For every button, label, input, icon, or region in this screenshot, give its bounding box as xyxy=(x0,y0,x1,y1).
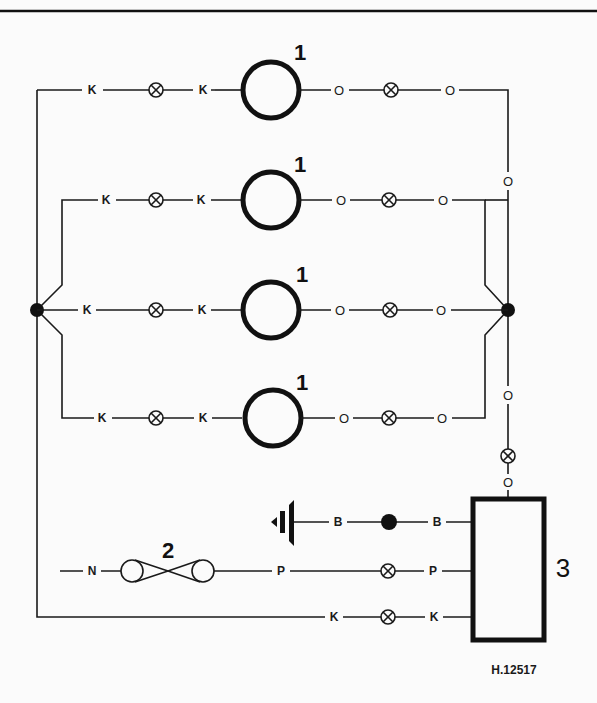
lamp-icon xyxy=(243,62,299,118)
component-label: 1 xyxy=(296,370,308,395)
control-unit-box xyxy=(473,499,544,640)
return-row: K K xyxy=(325,609,472,625)
lamp-row-3: K K 1 O O xyxy=(37,262,508,338)
lamp-row-1: K K 1 O O xyxy=(37,40,466,118)
reference-number: H.12517 xyxy=(491,663,537,677)
wire-code-label: B xyxy=(433,515,442,529)
connector-icon xyxy=(382,193,396,207)
wire-code-label: O xyxy=(336,193,346,208)
switch-icon xyxy=(121,560,214,582)
wire-code-label: K xyxy=(198,303,207,317)
switch-row: N 2 P P xyxy=(60,538,472,582)
lamp-row-2: K K 1 O O xyxy=(96,152,460,228)
ground-icon xyxy=(271,500,294,546)
control-unit: 3 xyxy=(473,499,570,640)
wire-code-label: K xyxy=(199,83,208,97)
lamp-icon xyxy=(243,172,299,228)
component-label: 1 xyxy=(296,262,308,287)
component-label: 1 xyxy=(294,152,306,177)
wire-code-label: O xyxy=(445,83,455,98)
left-trunk xyxy=(30,90,329,617)
wire-code-label: K xyxy=(430,610,439,624)
connector-icon xyxy=(383,303,397,317)
wire-code-label: O xyxy=(437,411,447,426)
connector-icon xyxy=(149,411,163,425)
connector-icon xyxy=(501,449,515,463)
wire-code-label: O xyxy=(503,174,513,189)
wire-code-label: O xyxy=(438,193,448,208)
lamp-icon xyxy=(243,282,299,338)
wire-code-label: K xyxy=(88,83,97,97)
wire-code-label: K xyxy=(83,303,92,317)
ground-row: B B xyxy=(271,500,472,546)
wire-code-label: O xyxy=(503,388,513,403)
wire-code-label: N xyxy=(88,564,97,578)
wire-code-label: K xyxy=(197,193,206,207)
component-label: 1 xyxy=(294,40,306,65)
connector-icon xyxy=(382,411,396,425)
component-label: 3 xyxy=(556,553,570,583)
wire-code-label: O xyxy=(503,475,513,490)
connector-icon xyxy=(384,83,398,97)
wire-code-label: K xyxy=(98,411,107,425)
lamp-row-4: K K 1 O O xyxy=(94,370,460,446)
lamp-icon xyxy=(245,390,301,446)
wiring-diagram: K K 1 O O K K xyxy=(0,0,597,703)
wire-code-label: K xyxy=(199,411,208,425)
wire-code-label: K xyxy=(330,610,339,624)
wire-code-label: O xyxy=(335,303,345,318)
component-label: 2 xyxy=(162,538,174,563)
wire-code-label: O xyxy=(339,411,349,426)
wire-code-label: K xyxy=(102,193,111,207)
connector-icon xyxy=(149,193,163,207)
wire-code-label: B xyxy=(334,515,343,529)
wire-code-label: P xyxy=(277,564,285,578)
connector-icon xyxy=(149,303,163,317)
splice-node xyxy=(381,514,397,530)
wire-code-label: P xyxy=(429,564,437,578)
wire-code-label: O xyxy=(436,303,446,318)
wire-code-label: O xyxy=(334,83,344,98)
connector-icon xyxy=(381,610,395,624)
right-trunk xyxy=(460,90,515,498)
connector-icon xyxy=(381,564,395,578)
connector-icon xyxy=(149,83,163,97)
